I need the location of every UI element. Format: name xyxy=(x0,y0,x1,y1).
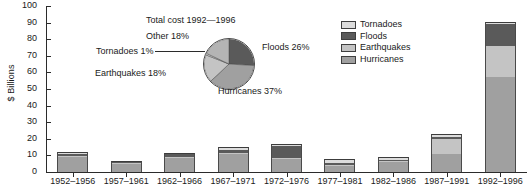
x-axis-label-1972–1976: 1972–1976 xyxy=(264,176,309,186)
legend-label: Hurricanes xyxy=(360,54,404,66)
y-axis-tick-label: 20 xyxy=(11,133,37,143)
pie-label-tornadoes: Tornadoes 1% xyxy=(96,46,154,56)
bar-segment-hurricanes xyxy=(111,164,142,172)
x-axis-labels: 1952–19561957–19611962–19661967–19711972… xyxy=(46,176,527,190)
bar-segment-hurricanes xyxy=(271,159,302,172)
pie-label-hurricanes: Hurricanes 37% xyxy=(218,86,282,96)
x-axis-label-1962–1966: 1962–1966 xyxy=(157,176,202,186)
x-axis-label-1987–1991: 1987–1991 xyxy=(424,176,469,186)
stacked-bar-chart: $ Billions 0102030405060708090100 1952–1… xyxy=(0,0,532,195)
pie-leader-line xyxy=(155,51,205,52)
legend-item-tornadoes: Tornadoes xyxy=(341,19,411,31)
pie-label-floods: Floods 26% xyxy=(262,42,310,52)
bar-1967–1971 xyxy=(218,147,249,172)
bar-group xyxy=(46,6,527,172)
legend-swatch-floods xyxy=(341,32,356,40)
bar-segment-hurricanes xyxy=(218,154,249,172)
legend-item-hurricanes: Hurricanes xyxy=(341,54,411,66)
x-axis-label-1992–1996: 1992–1996 xyxy=(478,176,523,186)
bar-1952–1956 xyxy=(57,152,88,172)
y-axis-tick-label: 30 xyxy=(11,116,37,126)
y-axis-tick-label: 0 xyxy=(11,166,37,176)
x-axis-label-1967–1971: 1967–1971 xyxy=(211,176,256,186)
bar-1977–1981 xyxy=(324,159,355,172)
legend-item-floods: Floods xyxy=(341,31,411,43)
legend-swatch-earthquakes xyxy=(341,44,356,52)
bar-segment-earthquakes xyxy=(485,46,516,78)
y-axis-tick-label: 40 xyxy=(11,100,37,110)
bar-1992–1996 xyxy=(485,22,516,172)
y-axis-tick-label: 10 xyxy=(11,149,37,159)
y-axis-tick-label: 70 xyxy=(11,50,37,60)
y-axis-tick-label: 50 xyxy=(11,83,37,93)
bar-1957–1961 xyxy=(111,161,142,172)
y-axis-tick-label: 90 xyxy=(11,17,37,27)
bar-segment-floods xyxy=(271,146,302,158)
x-axis-label-1957–1961: 1957–1961 xyxy=(104,176,149,186)
legend-label: Tornadoes xyxy=(360,19,402,31)
x-axis-label-1977–1981: 1977–1981 xyxy=(317,176,362,186)
y-axis-tick-label: 60 xyxy=(11,66,37,76)
bar-segment-hurricanes xyxy=(431,154,462,172)
bar-segment-earthquakes xyxy=(431,139,462,154)
bar-segment-hurricanes xyxy=(57,157,88,172)
bar-1982–1986 xyxy=(378,157,409,172)
bar-segment-hurricanes xyxy=(485,77,516,172)
y-axis-tick-label: 80 xyxy=(11,33,37,43)
pie-label-other: Other 18% xyxy=(146,31,189,41)
bar-segment-hurricanes xyxy=(378,162,409,172)
legend-label: Floods xyxy=(360,31,387,43)
y-axis-tick-mark xyxy=(46,172,51,173)
bar-1972–1976 xyxy=(271,144,302,172)
x-axis-label-1952–1956: 1952–1956 xyxy=(50,176,95,186)
legend-swatch-tornadoes xyxy=(341,21,356,29)
legend: TornadoesFloodsEarthquakesHurricanes xyxy=(341,19,411,65)
legend-swatch-hurricanes xyxy=(341,56,356,64)
pie-chart xyxy=(203,38,255,90)
legend-label: Earthquakes xyxy=(360,42,411,54)
pie-chart-title: Total cost 1992—1996 xyxy=(146,15,236,25)
plot-area: 0102030405060708090100 xyxy=(46,6,527,172)
bar-segment-floods xyxy=(485,24,516,46)
x-axis-label-1982–1986: 1982–1986 xyxy=(371,176,416,186)
legend-item-earthquakes: Earthquakes xyxy=(341,42,411,54)
y-axis-tick-label: 100 xyxy=(11,0,37,10)
pie-label-earthquakes: Earthquakes 18% xyxy=(95,68,166,78)
bar-1962–1966 xyxy=(164,153,195,172)
bar-segment-hurricanes xyxy=(164,158,195,172)
bar-1987–1991 xyxy=(431,134,462,172)
